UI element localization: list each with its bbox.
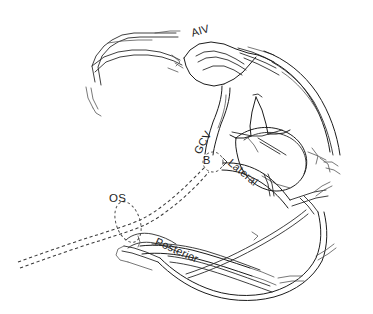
label-os: OS (109, 193, 126, 205)
gcv-vessel-group (205, 86, 230, 155)
small-branch-veins (290, 148, 340, 214)
coronary-vein-illustration (0, 0, 373, 314)
label-balloon-b: B (203, 154, 210, 166)
valve-leaflet-structure (230, 94, 290, 155)
aiv-vessel-group (86, 31, 183, 116)
anatomy-diagram: AIV GCV B Lateral OS Posterior (0, 0, 373, 314)
ventricle-body-outline (258, 51, 340, 155)
atrial-appendage-outline (184, 42, 279, 86)
